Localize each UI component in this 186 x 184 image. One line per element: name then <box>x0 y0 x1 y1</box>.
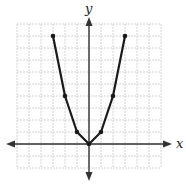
data-point <box>63 94 68 99</box>
x-axis-label: x <box>176 136 184 151</box>
data-point <box>75 130 80 135</box>
parabola-graph: x y <box>0 0 186 184</box>
data-point <box>51 34 56 39</box>
data-point <box>111 94 116 99</box>
y-axis-label: y <box>84 1 93 16</box>
data-point <box>99 130 104 135</box>
data-point <box>87 142 92 147</box>
data-point <box>123 34 128 39</box>
